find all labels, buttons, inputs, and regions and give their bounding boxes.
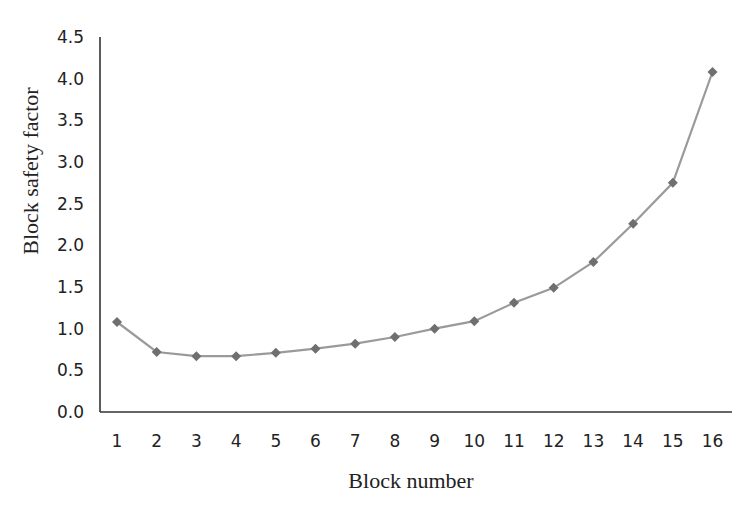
y-tick-label: 2.0 — [57, 235, 84, 255]
diamond-marker — [390, 332, 400, 342]
diamond-marker — [231, 351, 241, 361]
y-axis-tick-labels: 0.00.51.01.52.02.53.03.54.04.5 — [57, 27, 84, 422]
y-tick-label: 2.5 — [57, 194, 84, 214]
y-tick-label: 4.5 — [57, 27, 84, 47]
y-tick-label: 3.5 — [57, 110, 84, 130]
x-tick-label: 2 — [151, 431, 162, 451]
x-tick-label: 10 — [463, 431, 485, 451]
x-tick-label: 13 — [583, 431, 605, 451]
x-axis-title: Block number — [348, 468, 474, 493]
safety-factor-line — [117, 72, 713, 356]
diamond-marker — [509, 298, 519, 308]
y-axis-title: Block safety factor — [18, 87, 43, 255]
x-tick-label: 6 — [310, 431, 321, 451]
x-tick-label: 1 — [112, 431, 123, 451]
x-tick-label: 3 — [191, 431, 202, 451]
x-tick-label: 11 — [503, 431, 525, 451]
diamond-marker — [271, 348, 281, 358]
x-tick-label: 5 — [270, 431, 281, 451]
line-chart: 0.00.51.01.52.02.53.03.54.04.5 123456789… — [0, 0, 745, 507]
diamond-marker — [430, 324, 440, 334]
x-tick-label: 16 — [702, 431, 724, 451]
diamond-marker — [191, 351, 201, 361]
x-tick-label: 7 — [350, 431, 361, 451]
data-point-markers — [112, 67, 718, 361]
y-tick-label: 1.5 — [57, 277, 84, 297]
diamond-marker — [469, 316, 479, 326]
diamond-marker — [350, 339, 360, 349]
x-tick-label: 15 — [662, 431, 684, 451]
x-axis-tick-labels: 12345678910111213141516 — [112, 431, 724, 451]
x-tick-label: 14 — [622, 431, 644, 451]
x-tick-label: 8 — [389, 431, 400, 451]
y-tick-label: 3.0 — [57, 152, 84, 172]
diamond-marker — [708, 67, 718, 77]
x-tick-label: 4 — [231, 431, 242, 451]
x-tick-label: 12 — [543, 431, 565, 451]
y-tick-label: 4.0 — [57, 69, 84, 89]
y-tick-label: 0.5 — [57, 360, 84, 380]
y-tick-label: 0.0 — [57, 402, 84, 422]
y-tick-label: 1.0 — [57, 319, 84, 339]
diamond-marker — [311, 344, 321, 354]
x-tick-label: 9 — [429, 431, 440, 451]
